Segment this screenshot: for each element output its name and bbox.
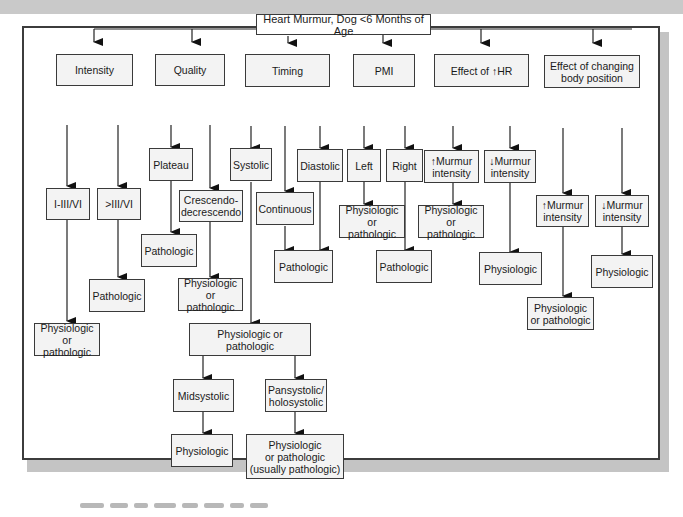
node-plateau-result: Pathologic [141, 234, 197, 267]
node-hr-up-result: Physiologic or pathologic [418, 205, 484, 238]
node-body-murmur-decrease: ↓Murmur intensity [595, 195, 649, 227]
node-diastolic: Diastolic [297, 149, 343, 182]
node-hr-murmur-decrease: ↓Murmur intensity [484, 150, 536, 183]
node-systolic-result: Physiologic or pathologic [189, 323, 311, 356]
node-midsystolic: Midsystolic [173, 379, 234, 412]
figure-caption: Figure caption (illegible) [80, 500, 270, 510]
node-body-up-result: Physiologic or pathologic [527, 297, 594, 330]
node-timing-pathologic: Pathologic [274, 250, 333, 283]
node-right: Right [386, 149, 423, 182]
node-timing: Timing [245, 54, 330, 87]
node-hr-murmur-increase: ↑Murmur intensity [424, 150, 479, 183]
node-pansystolic: Pansystolic/ holosystolic [265, 379, 327, 412]
node-left: Left [347, 149, 381, 182]
node-pmi: PMI [353, 54, 415, 87]
node-continuous: Continuous [256, 192, 314, 225]
node-intensity: Intensity [56, 54, 133, 86]
node-body-murmur-increase: ↑Murmur intensity [536, 195, 589, 227]
node-systolic: Systolic [230, 148, 272, 181]
node-intensity-high-result: Pathologic [89, 279, 145, 312]
node-crescendo-result: Physiologic or pathologic [178, 278, 243, 311]
node-hr-down-result: Physiologic [479, 252, 542, 285]
root-node: Heart Murmur, Dog <6 Months of Age [256, 14, 431, 35]
node-effect-hr: Effect of ↑HR [434, 54, 529, 87]
node-i-iii-vi: I-III/VI [46, 188, 90, 220]
node-crescendo-decrescendo: Crescendo- decrescendo [179, 190, 243, 222]
node-intensity-low-result: Physiologic or pathologic [34, 323, 100, 356]
node-quality: Quality [155, 54, 225, 86]
node-right-result: Pathologic [376, 250, 432, 283]
node-midsystolic-result: Physiologic [171, 434, 233, 467]
node-pansystolic-result: Physiologic or pathologic (usually patho… [246, 434, 344, 479]
node-body-down-result: Physiologic [591, 255, 653, 288]
node-left-result: Physiologic or pathologic [339, 205, 405, 238]
node-gt-iii-vi: >III/VI [97, 188, 141, 220]
node-plateau: Plateau [149, 148, 193, 181]
node-effect-body-position: Effect of changing body position [544, 55, 640, 88]
